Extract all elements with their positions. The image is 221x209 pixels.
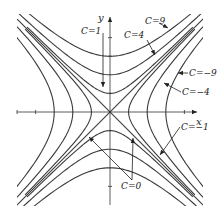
label-cm1: C=−1 bbox=[181, 122, 209, 132]
label-c1: C=1 bbox=[81, 26, 101, 36]
leader-c0-a bbox=[132, 138, 133, 180]
level-curve-diagram: x y C=9 C=4 C=1 C=−9 C=−4 C=−1 C=0 bbox=[0, 0, 221, 209]
label-c0: C=0 bbox=[121, 181, 141, 191]
level-curves bbox=[0, 0, 221, 209]
label-c4: C=4 bbox=[124, 30, 144, 40]
level-curve-c-4-b bbox=[0, 0, 73, 209]
leader-c0-b bbox=[89, 137, 132, 180]
leader-cm1 bbox=[160, 127, 180, 155]
label-cm4: C=−4 bbox=[182, 87, 210, 97]
y-axis-label: y bbox=[97, 12, 104, 23]
level-curve-c-4-a bbox=[147, 0, 221, 209]
level-curve-c9-a bbox=[0, 0, 221, 56]
label-cm9: C=−9 bbox=[189, 68, 217, 78]
label-c9: C=9 bbox=[145, 16, 165, 26]
